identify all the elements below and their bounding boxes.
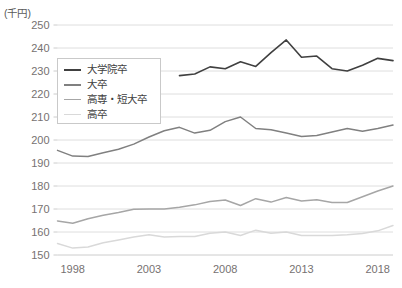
legend-item-label: 高専・短大卒 <box>87 94 147 105</box>
y-tick-label: 160 <box>31 226 49 238</box>
legend-item[interactable]: 大卒 <box>64 77 160 92</box>
y-tick-label: 220 <box>31 88 49 100</box>
legend-item[interactable]: 高卒 <box>64 107 160 122</box>
y-tick-label: 250 <box>31 19 49 31</box>
y-tick-label: 230 <box>31 65 49 77</box>
y-tick-label: 240 <box>31 42 49 54</box>
wage-by-education-line-chart: (千円) 150160170180190200210220230240250 1… <box>0 0 402 288</box>
chart-legend: 大学院卒大卒高専・短大卒高卒 <box>57 58 161 124</box>
x-tick-label: 2003 <box>137 263 161 275</box>
y-tick-label: 150 <box>31 249 49 261</box>
x-tick-label: 2018 <box>366 263 390 275</box>
legend-color-swatch-icon <box>64 114 81 115</box>
y-tick-label: 200 <box>31 134 49 146</box>
series-line <box>58 226 394 249</box>
legend-item[interactable]: 大学院卒 <box>64 62 160 77</box>
legend-item[interactable]: 高専・短大卒 <box>64 92 160 107</box>
y-axis-tick-labels: 150160170180190200210220230240250 <box>31 19 49 261</box>
legend-item-label: 大卒 <box>87 79 107 90</box>
x-tick-label: 1998 <box>61 263 85 275</box>
legend-item-label: 高卒 <box>87 109 107 120</box>
legend-color-swatch-icon <box>64 99 81 100</box>
y-tick-label: 170 <box>31 203 49 215</box>
y-tick-label: 210 <box>31 111 49 123</box>
x-tick-label: 2008 <box>213 263 237 275</box>
legend-color-swatch-icon <box>64 69 81 71</box>
x-axis-tick-labels: 19982003200820132018 <box>61 263 390 275</box>
chart-plot-area: 150160170180190200210220230240250 199820… <box>0 0 402 288</box>
y-tick-label: 190 <box>31 157 49 169</box>
legend-color-swatch-icon <box>64 84 81 86</box>
series-line <box>180 40 394 76</box>
legend-item-label: 大学院卒 <box>87 64 127 75</box>
series-line <box>58 186 394 223</box>
y-tick-label: 180 <box>31 180 49 192</box>
x-tick-label: 2013 <box>289 263 313 275</box>
